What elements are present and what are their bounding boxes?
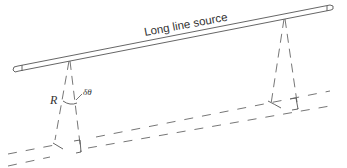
angle-pointer: [76, 94, 82, 100]
line-source-label: Long line source: [143, 11, 228, 38]
left-angle-arc: [63, 101, 77, 104]
angle-label: δθ: [83, 87, 92, 97]
right-fan-rays: [271, 19, 298, 109]
right-base-marks: [268, 98, 298, 110]
line-source-tube: [13, 5, 333, 72]
radius-label: R: [49, 93, 58, 107]
diagram-svg: Long line source R δθ: [0, 0, 347, 168]
left-fan-rays: [55, 61, 81, 152]
line-source-diagram: Long line source R δθ: [0, 0, 347, 168]
left-base-marks: [53, 140, 81, 153]
